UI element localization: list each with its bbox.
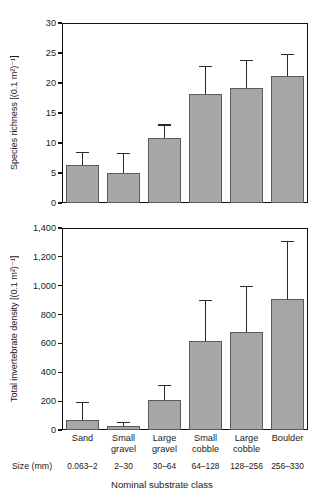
- y-tick-label-bottom: 600: [10, 338, 56, 348]
- y-tick-mark-bottom: [58, 429, 62, 430]
- error-bar-bottom: [82, 402, 83, 420]
- error-bar-bottom: [287, 241, 288, 299]
- error-bar-cap-bottom: [240, 286, 254, 287]
- bar-bottom: [230, 332, 263, 430]
- chart-panel-invertebrate-density: Total invertebrate density [(0.1 m²)⁻¹] …: [0, 0, 324, 499]
- y-tick-mark-bottom: [58, 285, 62, 286]
- x-category-label-line2: gravel: [144, 444, 185, 455]
- y-tick-mark-bottom: [58, 256, 62, 257]
- x-category-label: Largecobble: [226, 433, 267, 454]
- y-tick-label-bottom: 0: [10, 425, 56, 435]
- x-category-label: Largegravel: [144, 433, 185, 454]
- x-category-label: Sand: [62, 433, 103, 444]
- bar-bottom: [66, 420, 99, 430]
- x-category-label-line1: Sand: [62, 433, 103, 444]
- y-tick-label-bottom: 200: [10, 396, 56, 406]
- bar-bottom: [107, 426, 140, 430]
- x-size-label: 0.063–2: [62, 461, 103, 471]
- error-bar-cap-bottom: [117, 422, 131, 423]
- figure-bar-charts: Species richness [(0.1 m²)⁻¹] 0510152025…: [0, 0, 324, 499]
- x-category-label: Smallcobble: [185, 433, 226, 454]
- x-size-label: 2–30: [103, 461, 144, 471]
- x-category-label-line1: Small: [185, 433, 226, 444]
- bar-bottom: [271, 299, 304, 430]
- y-tick-label-bottom: 1,200: [10, 252, 56, 262]
- error-bar-cap-bottom: [158, 385, 172, 386]
- x-axis-title: Nominal substrate class: [0, 479, 324, 490]
- error-bar-cap-bottom: [281, 241, 295, 242]
- x-category-label: Boulder: [267, 433, 308, 444]
- y-tick-mark-bottom: [58, 314, 62, 315]
- y-tick-mark-bottom: [58, 343, 62, 344]
- x-size-label: 30–64: [144, 461, 185, 471]
- x-category-label-line2: cobble: [226, 444, 267, 455]
- y-tick-label-bottom: 1,000: [10, 281, 56, 291]
- y-tick-label-bottom: 800: [10, 310, 56, 320]
- x-size-label: 64–128: [185, 461, 226, 471]
- bar-bottom: [189, 341, 222, 430]
- x-size-label: 256–330: [267, 461, 308, 471]
- error-bar-cap-bottom: [76, 402, 90, 403]
- error-bar-bottom: [205, 300, 206, 340]
- error-bar-bottom: [246, 286, 247, 332]
- error-bar-bottom: [164, 385, 165, 399]
- x-category-label-line2: cobble: [185, 444, 226, 455]
- y-tick-mark-bottom: [58, 227, 62, 228]
- y-tick-mark-bottom: [58, 372, 62, 373]
- x-category-label-line2: gravel: [103, 444, 144, 455]
- x-category-label-line1: Boulder: [267, 433, 308, 444]
- y-tick-label-bottom: 1,400: [10, 223, 56, 233]
- x-category-label-line1: Large: [144, 433, 185, 444]
- y-tick-mark-bottom: [58, 401, 62, 402]
- size-row-caption: Size (mm): [12, 461, 52, 471]
- error-bar-cap-bottom: [199, 300, 213, 301]
- x-category-label: Smallgravel: [103, 433, 144, 454]
- x-size-label: 128–256: [226, 461, 267, 471]
- x-category-label-line1: Small: [103, 433, 144, 444]
- bar-bottom: [148, 400, 181, 430]
- y-tick-label-bottom: 400: [10, 367, 56, 377]
- x-category-label-line1: Large: [226, 433, 267, 444]
